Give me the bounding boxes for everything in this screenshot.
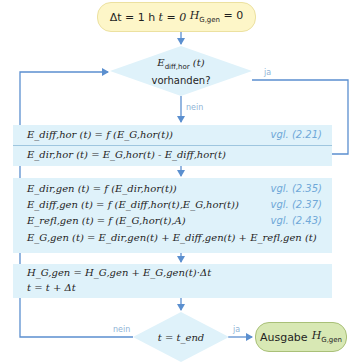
process-box-accumulate: H_G,gen = H_G,gen + E_G,gen(t)·Δt t = t … xyxy=(13,264,332,298)
decision1-text: Ediff,hor (t) vorhanden? xyxy=(130,56,232,88)
decision2-yes-label: ja xyxy=(233,325,240,334)
decision2-text: t = t_end xyxy=(140,331,222,345)
start-H: HG,gen = 0 xyxy=(190,9,244,24)
eq-diff-hor: E_diff,hor (t) = f (E_G,hor(t)) xyxy=(27,129,173,140)
start-dt: Δt = 1 h xyxy=(110,11,156,24)
divider xyxy=(13,145,332,146)
decision1-no-label: nein xyxy=(186,103,203,112)
start-t: t = 0 xyxy=(159,11,187,24)
process-box-generator: E_dir,gen (t) = f (E_dir,hor(t))vgl. (2.… xyxy=(13,178,332,253)
decision2-no-label: nein xyxy=(113,325,130,334)
output-terminal: Ausgabe HG,gen xyxy=(255,322,347,352)
start-terminal: Δt = 1 h t = 0 HG,gen = 0 xyxy=(97,2,256,32)
decision1-yes-label: ja xyxy=(264,68,271,77)
eq-dir-hor: E_dir,hor (t) = E_G,hor(t) - E_diff,hor(… xyxy=(27,149,226,160)
process-box-diffuse: E_diff,hor (t) = f (E_G,hor(t))vgl. (2.2… xyxy=(13,125,332,166)
